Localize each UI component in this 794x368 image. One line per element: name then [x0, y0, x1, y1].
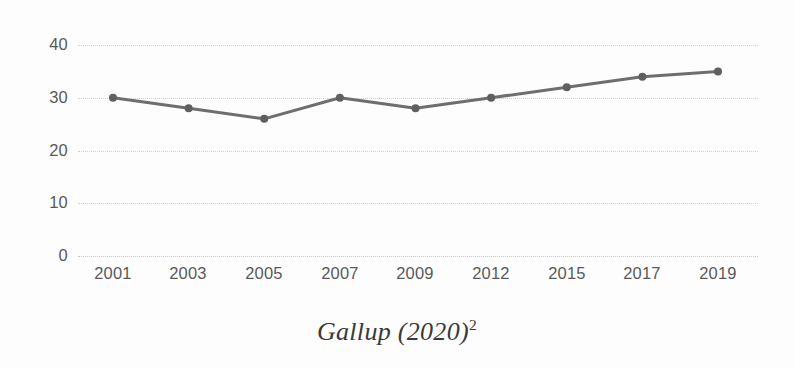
data-point-2001 — [109, 94, 117, 102]
data-point-2007 — [336, 94, 344, 102]
data-point-2003 — [185, 104, 193, 112]
figure-caption: Gallup (2020)2 — [0, 316, 794, 347]
caption-superscript: 2 — [469, 316, 477, 333]
figure-container: 40 30 20 10 0 2001 2003 2005 2007 2009 2… — [0, 0, 794, 368]
data-point-2015 — [563, 83, 571, 91]
series-markers — [109, 67, 722, 122]
data-point-2017 — [638, 73, 646, 81]
data-point-2005 — [260, 115, 268, 123]
data-point-2019 — [714, 67, 722, 75]
data-point-2009 — [412, 104, 420, 112]
caption-text: Gallup (2020) — [317, 317, 469, 346]
data-point-2012 — [487, 94, 495, 102]
data-series-svg — [0, 0, 794, 300]
chart-plot-area: 40 30 20 10 0 2001 2003 2005 2007 2009 2… — [0, 0, 794, 300]
